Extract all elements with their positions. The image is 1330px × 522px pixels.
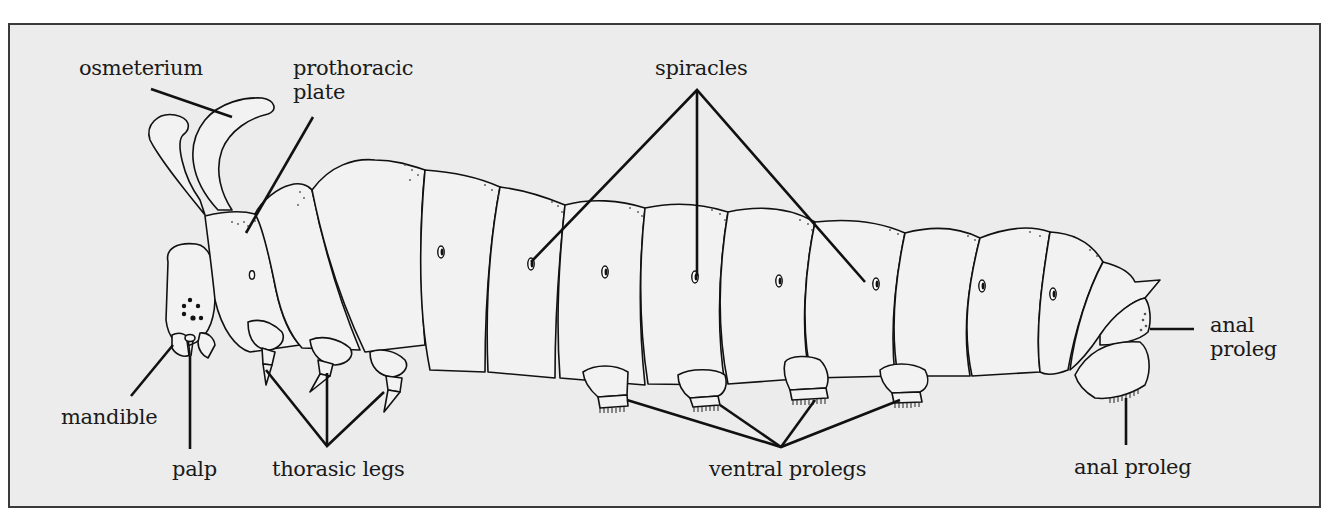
label-prothoracic-plate-line1: prothoracic xyxy=(293,56,413,80)
osmeterium-horns xyxy=(149,98,274,215)
label-anal-proleg-side-line1: anal xyxy=(1210,313,1254,337)
label-prothoracic-plate-line2: plate xyxy=(293,80,345,104)
label-ventral-prolegs: ventral prolegs xyxy=(709,457,866,481)
osmeterium-leader xyxy=(151,89,232,117)
label-mandible: mandible xyxy=(61,405,157,429)
ventral-prolegs-leader-2 xyxy=(720,405,781,447)
mandible-leader xyxy=(131,345,173,396)
label-palp: palp xyxy=(172,457,217,481)
mouthparts xyxy=(172,333,215,358)
label-anal-proleg-side-line2: proleg xyxy=(1210,337,1277,361)
label-anal-proleg-bottom: anal proleg xyxy=(1074,455,1191,479)
thoracic-legs-leader-outer xyxy=(266,370,384,446)
label-spiracles: spiracles xyxy=(655,56,747,80)
head-capsule xyxy=(166,244,215,346)
body xyxy=(166,160,1160,399)
label-thoracic-legs: thorasic legs xyxy=(272,457,405,481)
label-osmeterium: osmeterium xyxy=(79,56,203,80)
ventral-prolegs-leader-outer xyxy=(627,400,900,447)
